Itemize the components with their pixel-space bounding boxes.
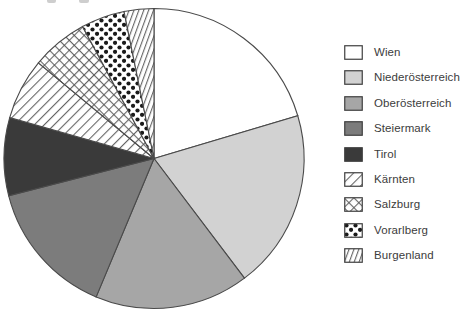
legend-item-oberosterreich: Oberösterreich bbox=[344, 96, 460, 111]
legend-label: Tirol bbox=[374, 147, 396, 162]
legend-swatch bbox=[344, 147, 363, 162]
legend-swatch bbox=[344, 223, 363, 238]
legend-swatch bbox=[344, 96, 363, 111]
legend-item-burgenland: Burgenland bbox=[344, 248, 460, 263]
legend-label: Oberösterreich bbox=[374, 96, 451, 111]
legend-label: Kärnten bbox=[374, 172, 415, 187]
legend-swatch bbox=[344, 172, 363, 187]
legend-item-salzburg: Salzburg bbox=[344, 197, 460, 212]
legend-label: Wien bbox=[374, 45, 401, 60]
legend-swatch bbox=[344, 197, 363, 212]
legend-item-niederosterreich: Niederösterreich bbox=[344, 70, 460, 85]
chart-canvas: WienNiederösterreichOberösterreichSteier… bbox=[0, 0, 465, 316]
pie-chart bbox=[0, 0, 316, 316]
legend-label: Vorarlberg bbox=[374, 223, 428, 238]
legend-label: Salzburg bbox=[374, 197, 420, 212]
legend-swatch bbox=[344, 248, 363, 263]
legend-item-wien: Wien bbox=[344, 45, 460, 60]
legend-swatch bbox=[344, 70, 363, 85]
legend-item-steiermark: Steiermark bbox=[344, 121, 460, 136]
legend-label: Steiermark bbox=[374, 121, 431, 136]
legend-item-tirol: Tirol bbox=[344, 147, 460, 162]
legend-item-vorarlberg: Vorarlberg bbox=[344, 223, 460, 238]
legend-label: Niederösterreich bbox=[374, 70, 460, 85]
legend-label: Burgenland bbox=[374, 248, 434, 263]
legend-item-karnten: Kärnten bbox=[344, 172, 460, 187]
legend: WienNiederösterreichOberösterreichSteier… bbox=[344, 45, 460, 274]
legend-swatch bbox=[344, 121, 363, 136]
legend-swatch bbox=[344, 45, 363, 60]
